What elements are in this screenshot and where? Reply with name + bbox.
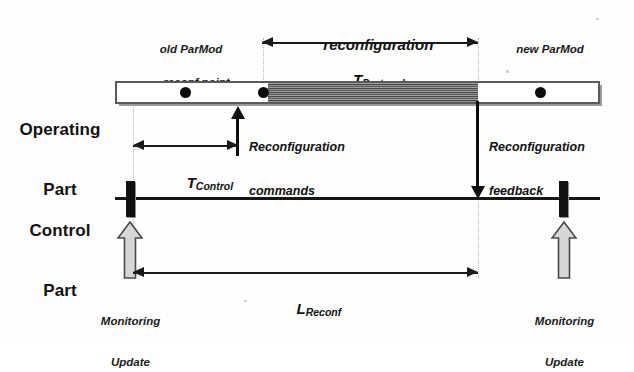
- reconfiguration-span-arrow: [262, 37, 478, 48]
- old-config-line1: old ParMod: [121, 43, 261, 57]
- hatch-segment: [436, 83, 478, 102]
- new-config-line1: new ParMod: [485, 43, 615, 57]
- event-dot: [535, 87, 546, 98]
- reconfiguration-protocol-region: [268, 83, 478, 102]
- monitoring-update-arrow-right: [551, 221, 577, 279]
- arrow-shaft: [262, 42, 478, 44]
- l-reconf-symbol: LReconf: [297, 300, 342, 317]
- t-control-symbol: TControl: [187, 174, 234, 191]
- hatch-segment: [394, 83, 437, 102]
- t-control-subscript: Control: [196, 180, 233, 192]
- monitoring-update-right-line2: Update: [512, 356, 617, 370]
- reconfiguration-feedback-arrow: [471, 101, 485, 199]
- label-t-control: TControl: [141, 155, 261, 212]
- label-l-reconf: LReconf: [245, 281, 375, 338]
- l-reconf-subscript: Reconf: [306, 306, 342, 318]
- arrow-head-right-icon: [467, 37, 478, 47]
- label-reconfiguration-commands: Reconfiguration commands: [249, 110, 399, 228]
- hatch-segment: [268, 83, 311, 102]
- label-new-parmod-configuration: new ParMod Configuration: [485, 16, 615, 125]
- event-dot: [180, 87, 191, 98]
- hatch-segment: [352, 83, 395, 102]
- control-event-tick: [559, 181, 568, 217]
- control-event-tick: [126, 181, 135, 217]
- monitoring-update-left-line1: Monitoring: [78, 315, 183, 329]
- arrow-head-right-icon: [227, 140, 238, 150]
- label-monitoring-update-right: Monitoring Update: [512, 288, 617, 372]
- l-reconf-base: L: [297, 300, 306, 317]
- operating-part-line1: Operating: [10, 120, 110, 140]
- label-monitoring-update-left: Monitoring Update: [78, 288, 183, 372]
- guide-line-protocol-end: [478, 38, 479, 86]
- monitoring-update-left-line2: Update: [78, 356, 183, 370]
- t-control-span-arrow: [133, 140, 238, 151]
- control-part-line1: Control: [10, 221, 110, 241]
- guide-line-protocol-end-lower: [478, 196, 479, 278]
- arrow-shaft: [133, 272, 478, 274]
- l-reconf-span-arrow: [133, 267, 478, 278]
- event-dot-reconf-point: [258, 87, 269, 98]
- t-control-base: T: [187, 174, 196, 191]
- monitoring-update-right-line1: Monitoring: [512, 315, 617, 329]
- hatch-segment: [310, 83, 353, 102]
- control-part-timeline: [115, 197, 600, 200]
- arrow-head-right-icon: [467, 267, 478, 277]
- reconf-commands-line1: Reconfiguration: [249, 140, 399, 155]
- arrow-shaft: [476, 101, 479, 188]
- reconf-feedback-line1: Reconfiguration: [489, 140, 634, 155]
- arrow-shaft: [133, 145, 238, 147]
